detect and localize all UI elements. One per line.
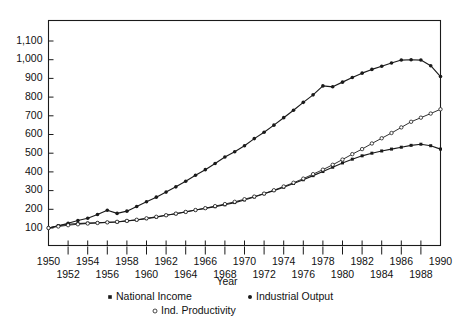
data-point bbox=[145, 217, 148, 220]
data-point bbox=[86, 216, 90, 220]
data-point bbox=[115, 220, 118, 223]
data-point bbox=[351, 76, 355, 80]
data-point bbox=[409, 58, 413, 62]
y-tick-label: 200 bbox=[25, 202, 43, 214]
data-point bbox=[233, 200, 236, 203]
data-point bbox=[106, 221, 109, 224]
data-point bbox=[204, 206, 207, 209]
data-point bbox=[341, 158, 344, 161]
data-point bbox=[380, 64, 384, 68]
data-point bbox=[47, 226, 50, 229]
data-point bbox=[76, 223, 79, 226]
x-tick-label: 1956 bbox=[96, 268, 120, 280]
data-point bbox=[409, 120, 412, 123]
data-point bbox=[321, 84, 325, 88]
data-point bbox=[360, 147, 363, 150]
economic-indicators-line-chart: 1002003004005006007008009001,0001,100 19… bbox=[0, 0, 454, 327]
data-point bbox=[262, 192, 265, 195]
data-point bbox=[400, 146, 403, 149]
data-point bbox=[96, 213, 100, 217]
x-tick-label: 1982 bbox=[350, 255, 374, 267]
data-point bbox=[419, 116, 422, 119]
x-tick-label: 1990 bbox=[429, 255, 453, 267]
x-axis-ticks bbox=[49, 241, 441, 255]
data-point bbox=[272, 189, 275, 192]
data-point bbox=[429, 144, 432, 147]
data-point bbox=[125, 209, 129, 213]
x-tick-label: 1964 bbox=[174, 268, 198, 280]
data-point bbox=[331, 163, 334, 166]
data-point bbox=[282, 116, 286, 120]
data-point bbox=[194, 173, 198, 177]
data-point bbox=[400, 58, 404, 62]
data-point bbox=[302, 177, 305, 180]
data-point bbox=[223, 202, 226, 205]
data-point bbox=[184, 179, 188, 183]
data-point bbox=[419, 58, 423, 62]
data-point bbox=[419, 143, 422, 146]
data-point bbox=[351, 158, 354, 161]
data-point bbox=[331, 85, 335, 89]
y-tick-label: 100 bbox=[25, 221, 43, 233]
data-point bbox=[174, 185, 178, 189]
y-tick-label: 800 bbox=[25, 90, 43, 102]
data-point bbox=[262, 130, 266, 134]
data-point bbox=[439, 75, 443, 79]
data-point bbox=[429, 64, 433, 68]
data-point bbox=[429, 112, 432, 115]
y-tick-label: 600 bbox=[25, 127, 43, 139]
x-tick-label: 1972 bbox=[252, 268, 276, 280]
x-tick-label: 1960 bbox=[135, 268, 159, 280]
data-point bbox=[282, 185, 285, 188]
data-point bbox=[125, 219, 128, 222]
x-tick-label: 1954 bbox=[76, 255, 100, 267]
data-point bbox=[341, 80, 345, 84]
x-tick-label: 1984 bbox=[370, 268, 394, 280]
data-point bbox=[370, 142, 373, 145]
x-tick-label: 1980 bbox=[331, 268, 355, 280]
data-point bbox=[370, 68, 374, 72]
legend-label: Industrial Output bbox=[256, 290, 333, 302]
y-tick-label: 700 bbox=[25, 109, 43, 121]
data-point bbox=[135, 218, 138, 221]
data-point bbox=[135, 205, 139, 209]
data-point bbox=[439, 108, 442, 111]
x-tick-label: 1974 bbox=[272, 255, 296, 267]
data-point bbox=[145, 200, 149, 204]
y-tick-label: 400 bbox=[25, 165, 43, 177]
data-point bbox=[311, 93, 315, 97]
y-tick-label: 1,100 bbox=[16, 34, 42, 46]
data-point bbox=[390, 131, 393, 134]
y-tick-label: 500 bbox=[25, 146, 43, 158]
data-point bbox=[57, 225, 60, 228]
x-axis-title: Year bbox=[216, 275, 238, 287]
data-point bbox=[76, 219, 80, 223]
x-tick-label: 1988 bbox=[409, 268, 433, 280]
data-point bbox=[370, 152, 373, 155]
data-point bbox=[204, 168, 208, 172]
legend-label: National Income bbox=[116, 290, 192, 302]
data-point bbox=[341, 161, 344, 164]
legend-label: Ind. Productivity bbox=[161, 304, 236, 316]
data-point bbox=[115, 212, 119, 216]
data-point bbox=[66, 223, 69, 226]
data-point bbox=[233, 150, 237, 154]
data-point bbox=[223, 155, 227, 159]
data-point bbox=[390, 148, 393, 151]
data-point bbox=[155, 215, 158, 218]
data-point bbox=[86, 222, 89, 225]
x-tick-label: 1958 bbox=[115, 255, 139, 267]
chart-container: 1002003004005006007008009001,0001,100 19… bbox=[0, 0, 454, 327]
data-point bbox=[164, 214, 167, 217]
data-point bbox=[253, 195, 256, 198]
x-tick-label: 1952 bbox=[56, 268, 80, 280]
data-point bbox=[302, 101, 306, 105]
data-point bbox=[184, 210, 187, 213]
data-point bbox=[360, 71, 364, 75]
data-point bbox=[351, 152, 354, 155]
data-point bbox=[213, 204, 216, 207]
data-point bbox=[164, 190, 168, 194]
data-point bbox=[439, 148, 442, 151]
data-point bbox=[380, 137, 383, 140]
x-tick-label: 1976 bbox=[292, 268, 316, 280]
